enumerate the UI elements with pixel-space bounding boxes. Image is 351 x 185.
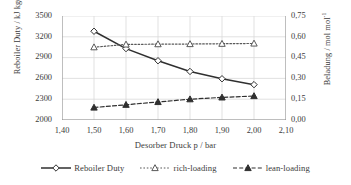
plot-svg — [62, 16, 286, 120]
legend-item-label: rich-loading — [173, 163, 216, 173]
series-2 — [91, 40, 257, 50]
data-point-marker — [251, 81, 257, 87]
x-axis-tick-label: 1,90 — [209, 127, 235, 135]
data-point-marker — [53, 165, 59, 171]
x-axis-tick-label: 1,50 — [81, 127, 107, 135]
plot-area — [62, 16, 286, 120]
legend-item-label: Reboiler Duty — [74, 163, 124, 173]
legend-item[interactable]: lean-loading — [233, 163, 310, 173]
data-point-marker — [187, 68, 193, 74]
x-axis-tick-label: 1,80 — [177, 127, 203, 135]
x-axis-tick-label: 2,10 — [273, 127, 299, 135]
x-axis-tick-label: 1,60 — [113, 127, 139, 135]
series-line — [94, 96, 254, 108]
x-axis-tick-label: 1,40 — [49, 127, 75, 135]
legend-item-label: lean-loading — [266, 163, 310, 173]
chart-figure: Reboiler Duty / kJ kg(CO2)-1 Beladung / … — [0, 0, 351, 185]
legend-item[interactable]: rich-loading — [140, 163, 216, 173]
data-point-marker — [91, 28, 97, 34]
series-3 — [91, 93, 257, 110]
legend-marker-icon — [140, 163, 170, 173]
x-axis-tick-label: 2,00 — [241, 127, 267, 135]
legend-marker-icon — [233, 163, 263, 173]
legend-marker-icon — [41, 163, 71, 173]
data-point-marker — [91, 44, 97, 50]
data-point-marker — [219, 76, 225, 82]
x-axis-tick-label: 1,70 — [145, 127, 171, 135]
data-point-marker — [155, 58, 161, 64]
chart-legend: Reboiler Dutyrich-loadinglean-loading — [0, 163, 351, 173]
legend-item[interactable]: Reboiler Duty — [41, 163, 124, 173]
